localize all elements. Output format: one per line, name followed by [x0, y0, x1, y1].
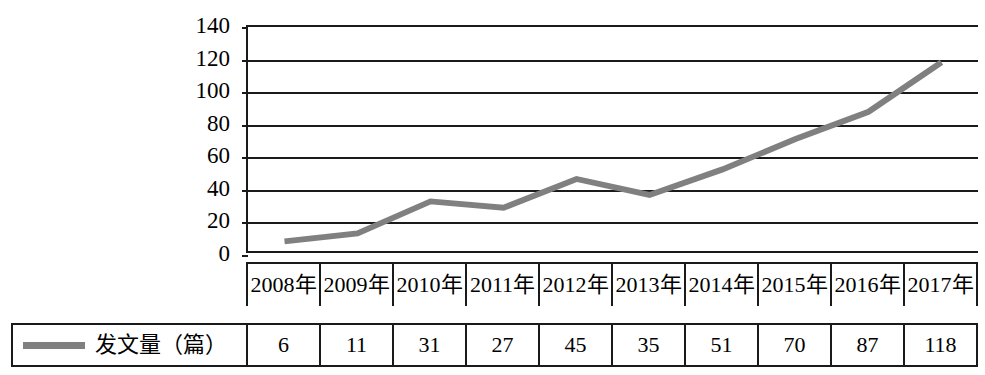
y-tick-label-100: 100 — [196, 79, 231, 102]
category-label-1: 2009年 — [321, 264, 394, 306]
value-cell-8: 87 — [832, 325, 905, 365]
y-tick-label-0: 0 — [219, 242, 231, 265]
value-cell-7: 70 — [759, 325, 832, 365]
category-label-9: 2017年 — [905, 264, 976, 306]
category-header-row: 2008年2009年2010年2011年2012年2013年2014年2015年… — [246, 262, 978, 306]
series-line-chart — [248, 27, 978, 251]
legend-line-swatch-icon — [23, 342, 85, 349]
y-tick-label-80: 80 — [207, 111, 230, 134]
legend-cell: 发文量（篇） — [13, 325, 248, 365]
plot-area — [246, 25, 978, 253]
category-label-4: 2012年 — [540, 264, 613, 306]
category-label-3: 2011年 — [467, 264, 540, 306]
value-cell-0: 6 — [248, 325, 321, 365]
legend-label: 发文量（篇） — [95, 334, 227, 356]
y-tick-label-40: 40 — [207, 176, 230, 199]
y-tick-label-60: 60 — [207, 144, 230, 167]
category-label-6: 2014年 — [686, 264, 759, 306]
legend-and-values-row: 发文量（篇） 61131274535517087118 — [11, 323, 978, 367]
category-label-8: 2016年 — [832, 264, 905, 306]
value-cell-6: 51 — [686, 325, 759, 365]
y-tick-label-120: 120 — [196, 46, 231, 69]
category-label-5: 2013年 — [613, 264, 686, 306]
value-cell-4: 45 — [540, 325, 613, 365]
value-cell-9: 118 — [905, 325, 976, 365]
value-cells: 61131274535517087118 — [248, 325, 976, 365]
category-label-7: 2015年 — [759, 264, 832, 306]
series-line-fawenliang — [285, 62, 942, 241]
y-tick-label-140: 140 — [196, 14, 231, 37]
y-tick-label-20: 20 — [207, 209, 230, 232]
category-label-2: 2010年 — [394, 264, 467, 306]
value-cell-2: 31 — [394, 325, 467, 365]
value-cell-3: 27 — [467, 325, 540, 365]
value-cell-5: 35 — [613, 325, 686, 365]
y-axis-tick-labels: 140120100806040200 — [0, 25, 238, 253]
value-cell-1: 11 — [321, 325, 394, 365]
category-label-0: 2008年 — [248, 264, 321, 306]
chart-figure: 140120100806040200 2008年2009年2010年2011年2… — [0, 0, 985, 375]
y-tick-mark-0 — [242, 255, 248, 257]
